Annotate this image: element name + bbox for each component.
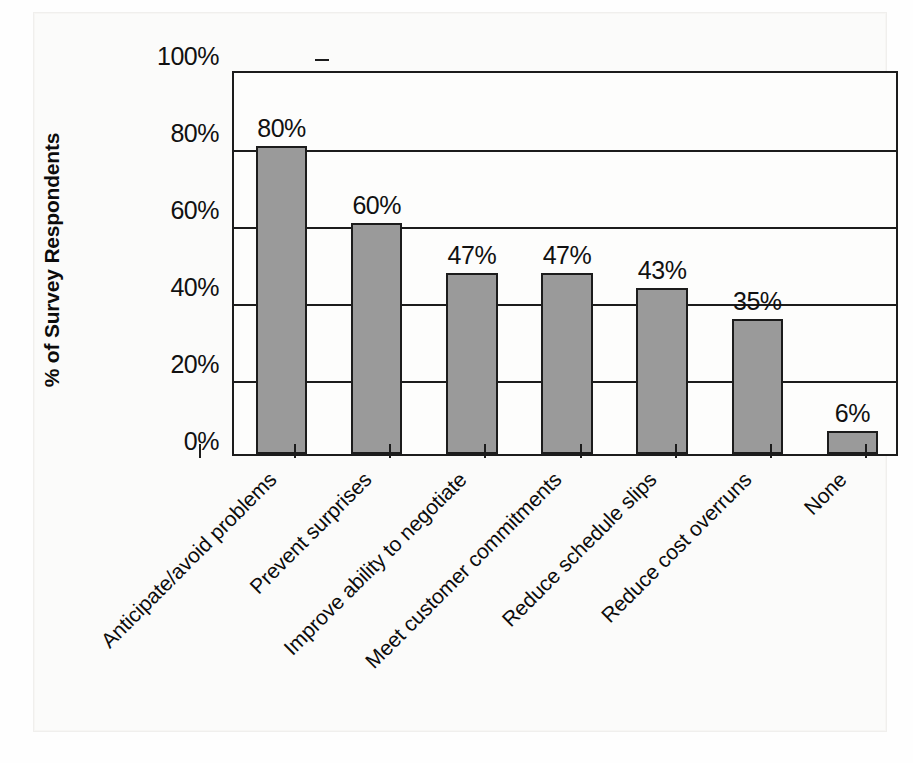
x-tick-mark xyxy=(389,444,391,458)
bar-value-label: 35% xyxy=(710,287,805,316)
x-tick-mark xyxy=(865,444,867,458)
x-tick-mark xyxy=(580,444,582,458)
page-canvas: % of Survey Respondents 0%20%40%60%80%10… xyxy=(0,0,913,763)
y-tick-label: 20% xyxy=(170,350,219,379)
figure-frame: % of Survey Respondents 0%20%40%60%80%10… xyxy=(33,12,887,732)
x-tick-mark xyxy=(770,444,772,458)
y-tick-label: 0% xyxy=(184,427,219,456)
bar[interactable] xyxy=(351,223,402,454)
x-tick-mark xyxy=(294,444,296,458)
bar[interactable] xyxy=(541,273,592,454)
bar[interactable] xyxy=(636,288,687,454)
plot-area: 80%60%47%47%43%35%6% xyxy=(232,71,898,456)
gridline xyxy=(234,150,896,152)
x-tick-mark xyxy=(199,444,201,458)
y-tick-label: 40% xyxy=(170,273,219,302)
bar-value-label: 80% xyxy=(234,114,329,143)
bar[interactable] xyxy=(446,273,497,454)
bar[interactable] xyxy=(732,319,783,454)
gridline xyxy=(234,227,896,229)
bar-value-label: 43% xyxy=(615,256,710,285)
bar[interactable] xyxy=(256,146,307,454)
bar-value-label: 47% xyxy=(424,241,519,270)
y-tick-label: 100% xyxy=(157,42,219,71)
y-tick-label: 80% xyxy=(170,119,219,148)
x-tick-mark xyxy=(484,444,486,458)
bar-value-label: 47% xyxy=(519,241,614,270)
x-tick-mark xyxy=(675,444,677,458)
y-tick-mark xyxy=(315,59,329,61)
y-tick-label: 60% xyxy=(170,196,219,225)
y-axis-title: % of Survey Respondents xyxy=(40,60,64,460)
bar[interactable] xyxy=(827,431,878,454)
bar-value-label: 6% xyxy=(805,399,900,428)
bar-value-label: 60% xyxy=(329,191,424,220)
